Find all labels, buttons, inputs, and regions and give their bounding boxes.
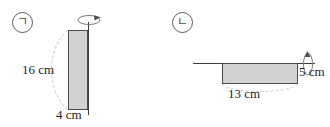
dimension-label-b-width: 13 cm — [228, 86, 260, 102]
axis-of-rotation-vertical — [88, 22, 89, 115]
figure-label-nieun: ㄴ — [172, 12, 193, 33]
rectangle-figure-b — [222, 63, 298, 84]
dimension-label-a-height: 16 cm — [22, 62, 54, 78]
diagram-canvas: ㄱ 16 cm 4 cm ㄴ 13 cm 5 cm — [0, 0, 330, 127]
dimension-label-b-height: 5 cm — [299, 64, 325, 80]
figure-label-giyeok: ㄱ — [12, 12, 33, 33]
rectangle-figure-a — [68, 30, 88, 110]
rotation-arrow-icon-a — [74, 12, 104, 28]
dimension-label-a-width: 4 cm — [56, 107, 82, 123]
